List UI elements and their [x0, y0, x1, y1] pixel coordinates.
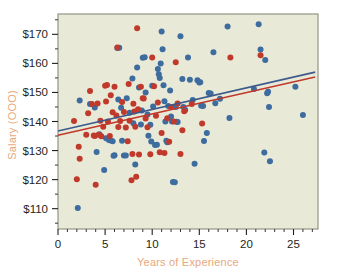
- data-point: [173, 59, 179, 65]
- data-point: [172, 179, 178, 185]
- data-point: [121, 109, 127, 115]
- data-point: [85, 110, 91, 116]
- data-point: [110, 138, 116, 144]
- x-tick-label: 25: [287, 238, 300, 250]
- data-point: [265, 89, 271, 95]
- data-point: [89, 101, 95, 107]
- data-point: [166, 139, 172, 145]
- data-point: [164, 115, 170, 121]
- chart-canvas: 0510152025$110$120$130$140$150$160$170 Y…: [0, 0, 337, 273]
- data-point: [119, 138, 125, 144]
- x-tick-label: 5: [102, 238, 108, 250]
- data-point: [71, 118, 77, 124]
- data-point: [138, 121, 144, 127]
- data-point: [135, 106, 141, 112]
- data-point: [101, 167, 107, 173]
- scatter-plot-figure: 0510152025$110$120$130$140$150$160$170 Y…: [0, 0, 337, 273]
- data-point: [143, 89, 149, 95]
- data-point: [155, 100, 161, 106]
- x-tick-label: 15: [193, 238, 206, 250]
- data-point: [185, 55, 191, 61]
- data-point: [226, 115, 232, 121]
- data-point: [158, 60, 164, 66]
- data-point: [227, 55, 233, 61]
- data-point: [145, 133, 151, 139]
- data-point: [262, 57, 268, 63]
- data-point: [187, 77, 193, 83]
- data-point: [108, 92, 114, 98]
- data-point: [123, 125, 129, 131]
- data-point: [212, 100, 218, 106]
- data-point: [129, 151, 135, 157]
- data-point: [134, 64, 140, 70]
- data-point: [159, 130, 165, 136]
- data-point: [112, 84, 118, 90]
- data-point: [192, 161, 198, 167]
- data-point: [258, 52, 264, 58]
- data-point: [292, 84, 298, 90]
- data-point: [129, 76, 135, 82]
- data-point: [77, 156, 83, 162]
- data-point: [103, 98, 109, 104]
- data-point: [94, 149, 100, 155]
- data-point: [149, 55, 155, 61]
- data-point: [225, 23, 231, 29]
- y-tick-label: $150: [22, 86, 48, 98]
- data-point: [107, 133, 113, 139]
- data-point: [76, 144, 82, 150]
- data-point: [177, 33, 183, 39]
- data-point: [197, 79, 203, 85]
- data-point: [266, 104, 272, 110]
- y-tick-label: $140: [22, 116, 48, 128]
- data-point: [83, 132, 89, 138]
- x-tick-label: 20: [240, 238, 253, 250]
- data-point: [119, 99, 125, 105]
- data-point: [124, 95, 130, 101]
- data-point: [130, 101, 136, 107]
- x-tick-label: 10: [146, 238, 159, 250]
- data-point: [267, 158, 273, 164]
- data-point: [179, 127, 185, 133]
- data-point: [155, 66, 161, 72]
- data-point: [201, 138, 207, 144]
- data-point: [132, 162, 138, 168]
- data-point: [132, 124, 138, 130]
- data-point: [126, 81, 132, 87]
- data-point: [157, 75, 163, 81]
- data-point: [179, 76, 185, 82]
- y-tick-label: $110: [23, 203, 48, 215]
- data-point: [200, 103, 206, 109]
- x-axis-title: Years of Experience: [137, 256, 239, 268]
- data-point: [138, 84, 144, 90]
- data-point: [154, 142, 160, 148]
- data-point: [161, 82, 167, 88]
- data-point: [177, 151, 183, 157]
- data-point: [300, 112, 306, 118]
- data-point: [256, 21, 262, 27]
- data-point: [77, 98, 83, 104]
- data-point: [167, 87, 173, 93]
- data-point: [144, 124, 150, 130]
- data-point: [161, 98, 167, 104]
- data-point: [258, 46, 264, 52]
- data-point: [159, 28, 165, 34]
- data-point: [147, 151, 153, 157]
- data-point: [136, 152, 142, 158]
- data-point: [125, 138, 131, 144]
- data-point: [142, 54, 148, 60]
- data-point: [115, 124, 121, 130]
- data-point: [93, 182, 99, 188]
- data-point: [104, 82, 110, 88]
- data-point: [160, 46, 166, 52]
- y-tick-label: $160: [22, 57, 48, 69]
- data-point: [261, 150, 267, 156]
- y-axis-title: Salary (OOO): [6, 90, 18, 160]
- data-point: [74, 176, 80, 182]
- data-point: [87, 88, 93, 94]
- data-point: [95, 100, 101, 106]
- y-tick-label: $120: [22, 174, 48, 186]
- data-point: [114, 44, 120, 50]
- y-tick-label: $130: [22, 145, 48, 157]
- data-point: [181, 108, 187, 114]
- data-point: [161, 150, 167, 156]
